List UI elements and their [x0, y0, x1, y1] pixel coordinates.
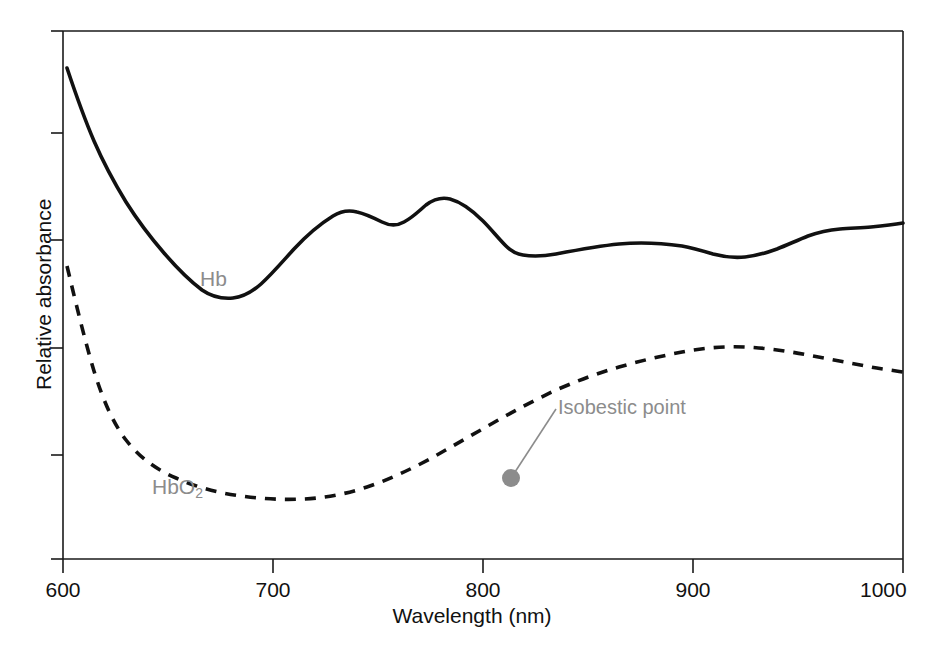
series-label-hb: Hb [200, 267, 227, 291]
isobestic-point-label: Isobestic point [558, 396, 686, 419]
x-tick-label-1000: 1000 [860, 578, 944, 602]
series-label-hbo2-subscript: 2 [195, 485, 203, 501]
x-tick-label-800: 800 [443, 578, 523, 602]
series-curve-hb [67, 68, 903, 298]
x-tick-label-900: 900 [653, 578, 733, 602]
x-tick-label-600: 600 [23, 578, 103, 602]
series-label-hbo2-base: HbO [152, 475, 195, 498]
x-tick-label-700: 700 [233, 578, 313, 602]
y-axis-title: Relative absorbance [32, 199, 56, 390]
absorbance-spectra-figure: 600 700 800 900 1000 Wavelength (nm) Rel… [0, 0, 944, 646]
series-label-hbo2: HbO2 [152, 475, 203, 499]
isobestic-point-marker [502, 469, 520, 487]
plot-canvas [0, 0, 944, 646]
x-axis-title: Wavelength (nm) [0, 604, 944, 628]
isobestic-leader-line [515, 409, 556, 472]
series-curve-hbo2 [67, 266, 903, 499]
